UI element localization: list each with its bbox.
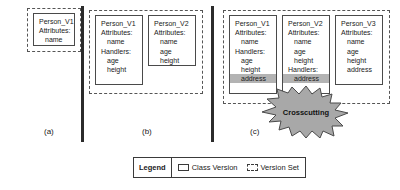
legend-items: Class Version Version Set	[172, 158, 305, 177]
class-version-line: age	[336, 47, 382, 56]
legend-item-label: Version Set	[261, 163, 299, 172]
class-version-line: height	[96, 65, 142, 74]
starburst-shape	[262, 86, 350, 138]
legend: Legend Class Version Version Set	[133, 157, 306, 178]
class-version-line: name	[336, 37, 382, 46]
class-version-line: Handlers:	[96, 47, 142, 56]
class-version-line: height	[336, 56, 382, 65]
version-set-swatch-icon	[247, 164, 258, 171]
class-version-title: Person_V1	[230, 19, 276, 28]
class-version-line: address	[336, 65, 382, 74]
class-version-line: age	[96, 56, 142, 65]
class-version-line: Attributes:	[283, 28, 329, 37]
panel-c-caption: (c)	[250, 127, 259, 136]
class-version-line: age	[230, 56, 276, 65]
class-version-line: name	[230, 37, 276, 46]
class-version-line: Attributes:	[230, 28, 276, 37]
panel-b-class-version-person-v2: Person_V2 Attributes: name age height	[148, 15, 196, 66]
class-version-title: Person_V1	[34, 17, 74, 26]
class-version-line: Attributes:	[34, 26, 74, 35]
class-version-line: name	[96, 37, 142, 46]
figure-canvas: Person_V1 Attributes: name (a) Person_V1…	[0, 0, 400, 190]
class-version-line: Handlers:	[230, 47, 276, 56]
class-version-title: Person_V3	[336, 19, 382, 28]
legend-title: Legend	[134, 158, 172, 177]
panel-c-class-version-person-v2: Person_V2 Attributes: name age height Ha…	[282, 15, 330, 94]
class-version-line: Attributes:	[149, 28, 195, 37]
panel-b-class-version-person-v1: Person_V1 Attributes: name Handlers: age…	[95, 15, 143, 85]
panel-divider-2	[211, 6, 214, 142]
crosscutting-starburst: Crosscutting	[262, 86, 350, 138]
legend-item-class-version: Class Version	[178, 163, 238, 172]
class-version-title: Person_V2	[149, 19, 195, 28]
class-version-line: Handlers:	[283, 65, 329, 74]
panel-a-caption: (a)	[44, 127, 54, 136]
class-version-line: height	[149, 56, 195, 65]
class-version-line: name	[149, 37, 195, 46]
panel-c-class-version-person-v3: Person_V3 Attributes: name age height ad…	[335, 15, 383, 85]
class-version-line: Attributes:	[336, 28, 382, 37]
class-version-line: height	[230, 65, 276, 74]
class-version-title: Person_V1	[96, 19, 142, 28]
legend-item-label: Class Version	[192, 163, 238, 172]
legend-item-version-set: Version Set	[247, 163, 299, 172]
class-version-line: height	[283, 56, 329, 65]
class-version-line-highlighted: address	[230, 74, 276, 83]
class-version-line-highlighted: address	[283, 74, 329, 83]
panel-c-class-version-person-v1: Person_V1 Attributes: name Handlers: age…	[229, 15, 277, 94]
panel-b-caption: (b)	[142, 127, 152, 136]
class-version-line: age	[283, 47, 329, 56]
class-version-title: Person_V2	[283, 19, 329, 28]
panel-a-class-version-person-v1: Person_V1 Attributes: name	[33, 13, 75, 46]
panel-divider-1	[81, 6, 84, 142]
class-version-line: Attributes:	[96, 28, 142, 37]
class-version-line: name	[283, 37, 329, 46]
class-version-line: age	[149, 47, 195, 56]
class-version-swatch-icon	[178, 164, 189, 171]
class-version-line: name	[34, 35, 74, 44]
